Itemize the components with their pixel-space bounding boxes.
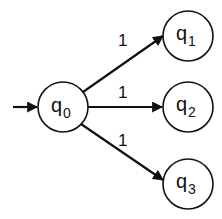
state-q3-label: q xyxy=(176,170,187,192)
edge-label-q0-q1: 1 xyxy=(118,31,127,50)
state-q3: q 3 xyxy=(163,159,213,209)
state-q0-subscript: 0 xyxy=(63,105,71,121)
state-q1-label: q xyxy=(176,22,187,44)
state-q1-subscript: 1 xyxy=(188,33,196,49)
state-q2-label: q xyxy=(176,93,187,115)
state-q1: q 1 xyxy=(163,11,213,61)
state-diagram: 1 1 1 q 0 q 1 q 2 q 3 xyxy=(0,0,222,219)
state-q0-label: q xyxy=(51,94,62,116)
state-q3-subscript: 3 xyxy=(188,181,196,197)
state-q2: q 2 xyxy=(163,82,213,132)
state-q0: q 0 xyxy=(38,82,88,132)
edge-label-q0-q2: 1 xyxy=(118,83,127,102)
edge-label-q0-q3: 1 xyxy=(118,131,127,150)
state-q2-subscript: 2 xyxy=(188,104,196,120)
